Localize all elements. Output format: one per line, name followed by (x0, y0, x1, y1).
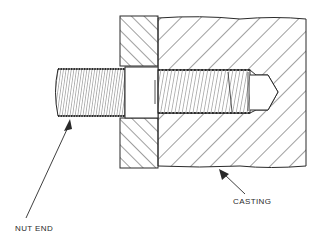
casting-leader (219, 169, 245, 194)
nut-end-leader (26, 119, 72, 218)
casting-label: CASTING (233, 197, 271, 206)
stud-bolt (56, 67, 279, 118)
stud-casting-diagram (0, 0, 323, 238)
nut-end-label: NUT END (15, 224, 53, 233)
